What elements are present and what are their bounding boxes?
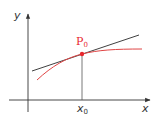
x0-label: x0	[77, 103, 88, 116]
function-curve	[37, 49, 142, 80]
x-axis-label: x	[142, 103, 149, 114]
p0-label: P0	[76, 36, 88, 49]
y-axis-label: y	[14, 10, 21, 21]
point-p0	[80, 52, 84, 56]
